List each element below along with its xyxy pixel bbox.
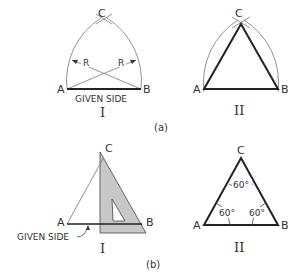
point-a-label: A [57, 216, 65, 229]
point-c-label: C [237, 144, 245, 157]
equilateral-triangle-construction-figure: C A B R R GIVEN SIDE I C A B II (a) [0, 0, 304, 274]
set-square [100, 152, 146, 233]
arc-from-b [67, 18, 101, 89]
step-numeral: I [100, 105, 105, 120]
step-numeral: I [100, 241, 105, 256]
equilateral-triangle [204, 24, 278, 89]
point-c-label: C [98, 7, 106, 20]
step-numeral: II [234, 103, 244, 118]
radius-label-right: R [118, 58, 124, 68]
construction-line-ac [67, 157, 104, 224]
point-a-label: A [193, 219, 201, 232]
panel-a-step-1: C A B R R GIVEN SIDE I [57, 7, 151, 120]
point-a-label: A [193, 83, 201, 96]
leader-line [77, 226, 88, 237]
point-b-label: B [143, 83, 151, 96]
given-side-label: GIVEN SIDE [17, 232, 69, 242]
step-numeral: II [234, 240, 244, 255]
panel-b-caption: (b) [146, 259, 160, 270]
panel-b-step-2: 60° 60° 60° C A B II [193, 144, 289, 255]
point-c-label: C [105, 142, 113, 155]
angle-label-right: 60° [249, 208, 265, 218]
point-b-label: B [146, 216, 154, 229]
point-b-label: B [281, 83, 289, 96]
given-side-label: GIVEN SIDE [75, 94, 127, 104]
radius-label-left: R [83, 58, 89, 68]
angle-label-top: 60° [233, 180, 249, 190]
panel-a-step-2: C A B II [193, 7, 289, 118]
point-b-label: B [281, 219, 289, 232]
panel-b-step-1: C A B GIVEN SIDE I [17, 142, 154, 256]
panel-a-caption: (a) [154, 122, 168, 133]
point-c-label: C [235, 7, 243, 20]
equilateral-triangle [204, 158, 278, 225]
arc-from-a [107, 18, 141, 89]
point-a-label: A [57, 83, 65, 96]
angle-label-left: 60° [219, 208, 235, 218]
